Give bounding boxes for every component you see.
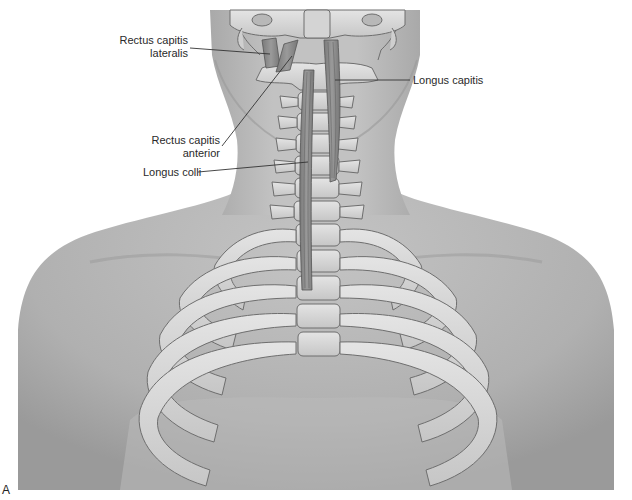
panel-letter: A: [2, 483, 10, 497]
label-longus-colli: Longus colli: [143, 166, 201, 179]
label-line-2: lateralis: [108, 47, 188, 60]
label-line-2: anterior: [140, 147, 220, 160]
anatomy-figure: Rectus capitis lateralis Rectus capitis …: [0, 0, 632, 500]
neck-anatomy-illustration: [0, 0, 632, 500]
label-longus-capitis: Longus capitis: [413, 74, 483, 87]
label-line-1: Rectus capitis: [140, 134, 220, 147]
label-rectus-capitis-anterior: Rectus capitis anterior: [140, 134, 220, 160]
label-rectus-capitis-lateralis: Rectus capitis lateralis: [108, 34, 188, 60]
label-line-1: Rectus capitis: [108, 34, 188, 47]
